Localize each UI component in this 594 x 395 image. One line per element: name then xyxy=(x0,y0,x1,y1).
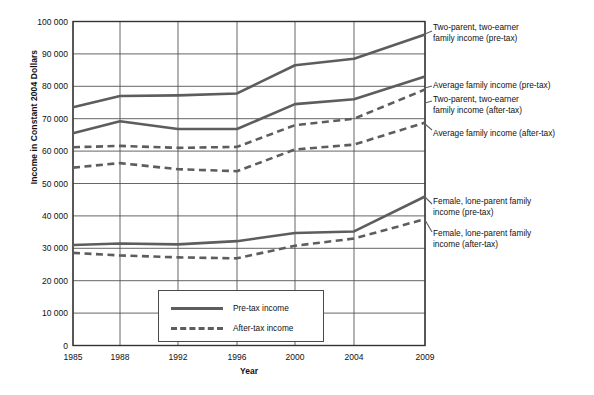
y-axis-tick-text: 80 000 xyxy=(42,81,68,91)
x-axis-tick-label: 2009 xyxy=(416,352,435,362)
chart-container: 010 00020 00030 00040 00050 00060 00070 … xyxy=(0,0,594,395)
x-axis-tick-label: 2004 xyxy=(345,352,364,362)
legend-entry-1: After-tax income xyxy=(171,323,293,333)
x-axis-tick-label: 1996 xyxy=(228,352,247,362)
x-axis-tick-label: 2000 xyxy=(286,352,305,362)
y-axis-tick-text: 100 000 xyxy=(37,17,68,27)
y-axis-tick-text: 90 000 xyxy=(42,49,68,59)
series-leader-3 xyxy=(425,124,432,130)
chart-legend: Pre-tax incomeAfter-tax income xyxy=(158,290,324,342)
x-axis-title: Year xyxy=(73,366,425,376)
y-axis-tick-text: 0 xyxy=(63,341,68,351)
y-axis-tick-text: 50 000 xyxy=(42,179,68,189)
y-axis-tick-text: 60 000 xyxy=(42,146,68,156)
series-label-2: Two-parent, two-earner family income (af… xyxy=(433,94,522,115)
series-leader-5 xyxy=(425,220,432,232)
y-axis-title: Income in Constant 2004 Dollars xyxy=(29,37,39,197)
y-axis-tick-text: 10 000 xyxy=(42,308,68,318)
series-leader-2 xyxy=(425,101,432,103)
series-label-4: Female, lone-parent family income (pre-t… xyxy=(433,196,531,217)
legend-swatch-solid xyxy=(171,307,223,310)
series-leader-1 xyxy=(425,86,432,88)
series-line-1 xyxy=(73,77,425,134)
series-label-5: Female, lone-parent family income (after… xyxy=(433,228,531,249)
legend-entry-0: Pre-tax income xyxy=(171,303,289,313)
series-label-3: Average family income (after-tax) xyxy=(433,128,555,139)
series-line-4 xyxy=(73,196,425,245)
x-axis-tick-label: 1992 xyxy=(169,352,188,362)
legend-entry-label: After-tax income xyxy=(233,323,293,333)
series-leader-0 xyxy=(425,31,432,34)
y-axis-tick-text: 20 000 xyxy=(42,276,68,286)
y-axis-tick-text: 70 000 xyxy=(42,114,68,124)
series-line-0 xyxy=(73,34,425,107)
legend-entry-label: Pre-tax income xyxy=(233,303,289,313)
series-leader-4 xyxy=(425,197,432,204)
legend-swatch-dashed xyxy=(171,327,223,330)
series-label-1: Average family income (pre-tax) xyxy=(433,80,550,91)
x-axis-tick-label: 1985 xyxy=(64,352,83,362)
y-axis-tick-text: 30 000 xyxy=(42,243,68,253)
series-label-0: Two-parent, two-earner family income (pr… xyxy=(433,22,519,43)
y-axis-tick-text: 40 000 xyxy=(42,211,68,221)
x-axis-tick-label: 1988 xyxy=(111,352,130,362)
